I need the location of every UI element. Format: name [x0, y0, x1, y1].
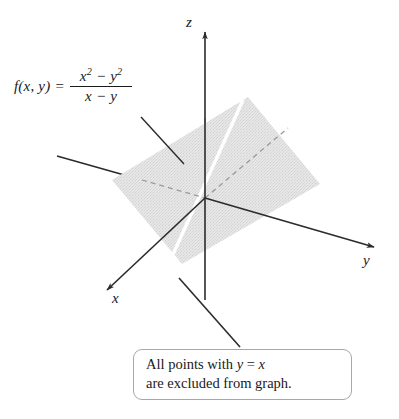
numerator-x: x	[80, 68, 87, 84]
formula-numerator: x2 − y2	[76, 68, 127, 86]
callout-line-2: are excluded from graph.	[146, 374, 341, 393]
callout-line-1-prefix: All points with	[146, 356, 237, 372]
callout-equals: =	[243, 356, 258, 372]
callout-box: All points with y = x are excluded from …	[133, 349, 352, 400]
formula-fraction: x2 − y2 x − y	[70, 68, 132, 105]
function-formula: f(x, y) = x2 − y2 x − y	[14, 68, 132, 105]
callout-leader-line	[179, 278, 240, 347]
numerator-y-exponent: 2	[117, 66, 122, 77]
numerator-y: y	[110, 68, 117, 84]
formula-denominator: x − y	[81, 87, 121, 105]
formula-equals-sign: =	[55, 78, 70, 95]
callout-var-x: x	[259, 356, 265, 372]
figure-container: f(x, y) = x2 − y2 x − y z y x All points…	[0, 0, 399, 419]
axis-label-x: x	[112, 290, 119, 307]
axis-label-z: z	[186, 14, 192, 31]
callout-line-1: All points with y = x	[146, 355, 341, 374]
axis-label-y: y	[363, 252, 370, 269]
numerator-x-exponent: 2	[87, 66, 92, 77]
numerator-minus: −	[96, 68, 106, 84]
formula-left-hand-side: f(x, y)	[14, 78, 55, 95]
